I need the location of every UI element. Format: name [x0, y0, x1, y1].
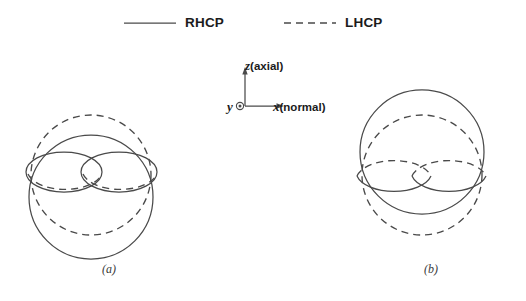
pattern-b-rhcp-major-lobe — [360, 90, 484, 214]
legend-item-rhcp: RHCP — [124, 16, 224, 30]
x-axis-annotation: (normal) — [280, 101, 326, 113]
radiation-pattern-a: (a) — [14, 56, 204, 256]
z-axis-annotation: (axial) — [250, 60, 283, 72]
legend-label-lhcp: LHCP — [345, 16, 383, 30]
z-axis-label: z(axial) — [245, 56, 283, 74]
solid-line-icon — [124, 16, 176, 30]
pattern-b-lhcp-major-lobe — [362, 115, 482, 235]
legend-item-lhcp: LHCP — [284, 16, 383, 30]
y-axis-letter: y — [227, 99, 233, 114]
y-axis-out-of-page-dot-icon — [239, 105, 242, 108]
legend-label-rhcp: RHCP — [185, 16, 224, 30]
coordinate-axes: z(axial) x(normal) y — [216, 58, 336, 130]
legend: RHCP LHCP — [0, 16, 526, 42]
panel-b-caption: (b) — [336, 262, 526, 277]
radiation-pattern-b: (b) — [336, 56, 526, 256]
dashed-line-icon — [284, 16, 336, 30]
radiation-pattern-figure: RHCP LHCP z(axial) x(n — [0, 0, 526, 301]
pattern-a-lhcp-major-lobe — [31, 115, 151, 235]
panel-a-caption: (a) — [14, 262, 204, 277]
x-axis-label: x(normal) — [273, 97, 326, 115]
pattern-b-minor-lobe-left-dashed — [357, 161, 431, 176]
y-axis-label: y — [227, 97, 233, 115]
pattern-a-minor-lobe-right — [81, 152, 157, 192]
